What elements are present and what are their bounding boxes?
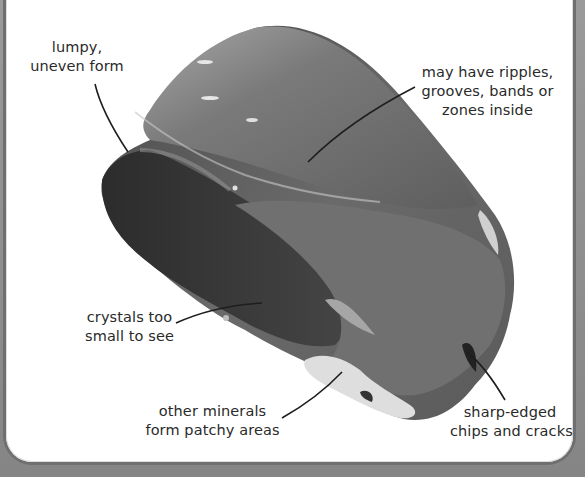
label-line: small to see bbox=[82, 327, 177, 346]
label-line: uneven form bbox=[22, 57, 132, 76]
label-other-minerals: other minerals form patchy areas bbox=[145, 402, 280, 440]
label-line: chips and cracks bbox=[450, 422, 570, 441]
label-line: lumpy, bbox=[22, 38, 132, 57]
label-line: grooves, bands or bbox=[415, 82, 560, 101]
label-line: crystals too bbox=[82, 308, 177, 327]
label-line: may have ripples, bbox=[415, 63, 560, 82]
callout-line-lumpy bbox=[95, 84, 128, 152]
label-line: other minerals bbox=[145, 402, 280, 421]
label-sharp-edged-chips: sharp-edged chips and cracks bbox=[450, 403, 570, 441]
label-line: sharp-edged bbox=[450, 403, 570, 422]
label-crystals-too-small: crystals too small to see bbox=[82, 308, 177, 346]
label-ripples-grooves: may have ripples, grooves, bands or zone… bbox=[415, 63, 560, 120]
label-lumpy-uneven-form: lumpy, uneven form bbox=[22, 38, 132, 76]
label-line: zones inside bbox=[415, 101, 560, 120]
label-line: form patchy areas bbox=[145, 421, 280, 440]
